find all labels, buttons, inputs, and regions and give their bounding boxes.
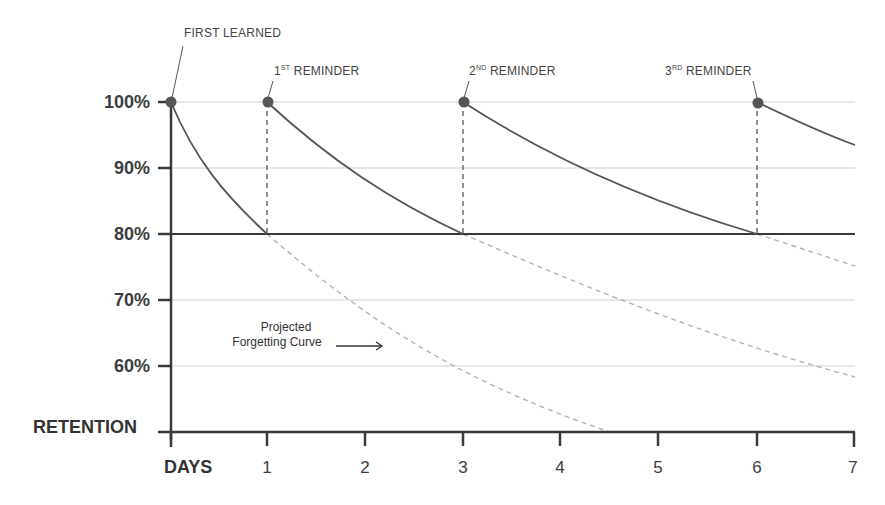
- projected-curve-2: [463, 234, 855, 377]
- retention-curve-3rd-reminder: [757, 102, 855, 145]
- x-tick-5: 5: [643, 458, 673, 478]
- projected-arrow-icon: [336, 342, 382, 350]
- y-tick-70: 70%: [70, 290, 150, 311]
- x-tick-3: 3: [448, 458, 478, 478]
- projected-forgetting-curves: [267, 234, 855, 432]
- y-tick-60: 60%: [70, 356, 150, 377]
- first-learned-dot: [166, 97, 177, 108]
- reminder-1-dot: [263, 97, 274, 108]
- annotation-first-learned: FIRST LEARNED: [184, 26, 281, 40]
- y-tick-80: 80%: [70, 224, 150, 245]
- projected-forgetting-curve-note: Projected Forgetting Curve: [222, 320, 332, 350]
- x-axis-ticks: [171, 432, 854, 447]
- reminder-2-dot: [459, 97, 470, 108]
- x-tick-6: 6: [742, 458, 772, 478]
- note-line-2: Forgetting Curve: [222, 335, 332, 350]
- x-tick-7: 7: [838, 458, 868, 478]
- y-axis-title: RETENTION: [33, 417, 137, 438]
- x-tick-2: 2: [350, 458, 380, 478]
- projected-curve-3: [757, 234, 855, 266]
- annotation-1st-reminder: 1ST REMINDER: [274, 64, 359, 78]
- y-tick-90: 90%: [70, 158, 150, 179]
- y-axis-ticks: [158, 102, 171, 366]
- note-line-1: Projected: [222, 320, 332, 335]
- annotation-2nd-reminder: 2ND REMINDER: [469, 64, 556, 78]
- axes: [158, 100, 855, 440]
- x-tick-4: 4: [545, 458, 575, 478]
- x-axis-title: DAYS: [164, 457, 212, 478]
- y-tick-100: 100%: [70, 92, 150, 113]
- reminder-3-dot: [753, 98, 764, 109]
- x-tick-1: 1: [252, 458, 282, 478]
- annotation-3rd-reminder: 3RD REMINDER: [665, 64, 752, 78]
